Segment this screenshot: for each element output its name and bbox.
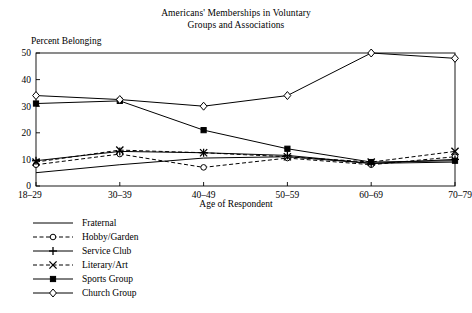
legend-label: Sports Group <box>76 274 133 284</box>
marker-diamond <box>200 102 207 110</box>
legend-label: Literary/Art <box>76 260 128 270</box>
marker-square <box>285 146 290 151</box>
legend-key-swatch <box>30 244 76 258</box>
legend-item-service-club[interactable]: Service Club <box>30 244 230 258</box>
series-line <box>36 154 455 167</box>
series-line <box>36 53 455 106</box>
series-church-group <box>33 49 459 110</box>
legend-label: Fraternal <box>76 218 116 228</box>
marker-circle <box>50 234 56 240</box>
plot-frame <box>36 53 455 186</box>
legend-item-church-group[interactable]: Church Group <box>30 286 230 300</box>
marker-square <box>33 101 38 106</box>
legend-key-icon <box>30 286 76 300</box>
legend-key-icon <box>30 272 76 286</box>
legend-key-icon <box>30 244 76 258</box>
legend-item-fraternal[interactable]: Fraternal <box>30 216 230 230</box>
legend-label: Church Group <box>76 288 137 298</box>
marker-diamond <box>452 54 459 62</box>
legend-key-swatch <box>30 230 76 244</box>
marker-diamond <box>368 49 375 57</box>
legend-key-swatch <box>30 272 76 286</box>
chart-root: Americans' Memberships in Voluntary Grou… <box>0 0 472 313</box>
y-axis-tick-label: 30 <box>22 102 32 112</box>
marker-square <box>369 159 374 164</box>
legend-key-swatch <box>30 286 76 300</box>
y-axis-tick-label: 40 <box>22 75 32 85</box>
marker-square <box>201 128 206 133</box>
x-axis-label: Age of Respondent <box>0 199 472 209</box>
series-line <box>36 150 455 162</box>
legend-item-literary-art[interactable]: Literary/Art <box>30 258 230 272</box>
legend-key-icon <box>30 216 76 230</box>
y-axis-tick-label: 20 <box>22 128 32 138</box>
marker-square <box>452 158 457 163</box>
legend-item-hobby-garden[interactable]: Hobby/Garden <box>30 230 230 244</box>
legend-item-sports-group[interactable]: Sports Group <box>30 272 230 286</box>
marker-diamond <box>33 92 40 100</box>
legend-key-swatch <box>30 258 76 272</box>
legend-key-swatch <box>30 216 76 230</box>
marker-circle <box>201 165 207 171</box>
legend-label: Hobby/Garden <box>76 232 138 242</box>
y-axis-tick-label: 10 <box>22 155 32 165</box>
marker-diamond <box>50 289 57 297</box>
marker-square <box>50 276 55 281</box>
marker-diamond <box>284 92 291 100</box>
legend-label: Service Club <box>76 246 131 256</box>
series-line <box>36 101 455 162</box>
y-axis-tick-label: 50 <box>22 48 32 58</box>
chart-legend: FraternalHobby/GardenService ClubLiterar… <box>30 216 230 300</box>
legend-key-icon <box>30 230 76 244</box>
legend-key-icon <box>30 258 76 272</box>
